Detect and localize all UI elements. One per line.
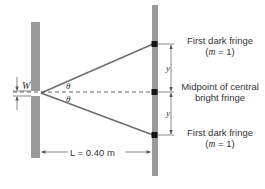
fringe-middle-line2: bright fringe [175,92,265,103]
angle-label-lower: θ [66,94,70,104]
y-label-upper: y [166,63,170,73]
fringe-middle-line1: Midpoint of central [175,81,265,92]
fringe-marker-middle [152,89,158,95]
ray-upper [41,44,153,93]
w-arrow-bottom [15,96,18,110]
angle-label-upper: θ [66,81,70,91]
slit-width-label: W [22,81,30,91]
fringe-bottom-line2: (m = 1) [178,138,262,150]
fringe-bottom-line1: First dark fringe [178,127,262,138]
slit-plate-upper [31,22,40,91]
distance-label-text: L = 0.40 m [70,147,115,158]
fringe-label-middle: Midpoint of central bright fringe [175,81,265,103]
ray-lower [41,93,153,135]
w-arrow-top [15,77,18,91]
fringe-marker-bottom [152,132,158,138]
fringe-top-line1: First dark fringe [178,35,262,46]
distance-label: L = 0.40 m [70,147,115,158]
fringe-label-bottom: First dark fringe (m = 1) [178,127,262,150]
fringe-top-line2: (m = 1) [178,46,262,58]
slit-plate-lower [31,96,40,158]
y-label-lower: y [166,108,170,118]
fringe-marker-top [152,41,158,47]
fringe-label-top: First dark fringe (m = 1) [178,35,262,58]
